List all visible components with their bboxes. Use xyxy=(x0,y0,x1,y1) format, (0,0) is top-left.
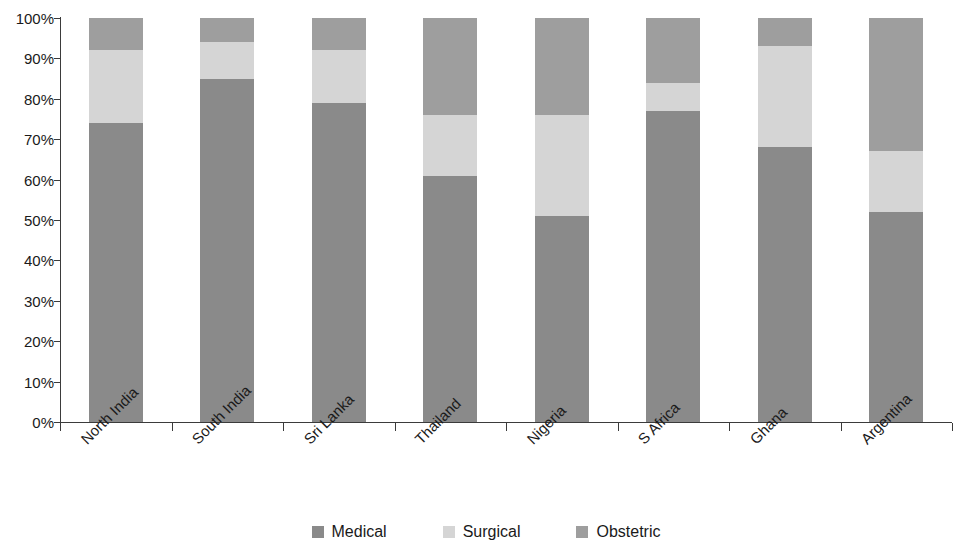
bar-segment-medical[interactable] xyxy=(200,79,254,422)
x-axis-tick-mark xyxy=(395,423,396,431)
y-axis-tick-label: 0% xyxy=(2,415,54,430)
legend-swatch-icon xyxy=(576,526,588,538)
y-axis-tick-label: 90% xyxy=(2,51,54,66)
plot-area xyxy=(60,18,952,422)
bar-segment-medical[interactable] xyxy=(646,111,700,422)
legend-label: Obstetric xyxy=(596,524,660,540)
bar-stack[interactable] xyxy=(646,18,700,422)
y-axis-tick-label: 30% xyxy=(2,293,54,308)
x-axis-tick-mark xyxy=(729,423,730,431)
legend-item-surgical[interactable]: Surgical xyxy=(443,524,521,540)
y-axis-tick-label: 20% xyxy=(2,334,54,349)
bar-stack[interactable] xyxy=(89,18,143,422)
bar-segment-surgical[interactable] xyxy=(758,46,812,147)
bar-stack[interactable] xyxy=(758,18,812,422)
y-axis-tick-label: 70% xyxy=(2,132,54,147)
y-axis-tick-label: 40% xyxy=(2,253,54,268)
bar-segment-medical[interactable] xyxy=(312,103,366,422)
y-axis-tick-label: 80% xyxy=(2,91,54,106)
legend-swatch-icon xyxy=(443,526,455,538)
y-axis-tick-label: 60% xyxy=(2,172,54,187)
bar-segment-surgical[interactable] xyxy=(200,42,254,78)
bar-segment-medical[interactable] xyxy=(89,123,143,422)
x-axis-tick-mark xyxy=(952,423,953,431)
bar-segment-medical[interactable] xyxy=(535,216,589,422)
bar-segment-surgical[interactable] xyxy=(535,115,589,216)
x-axis-tick-mark xyxy=(172,423,173,431)
bar-segment-obstetric[interactable] xyxy=(646,18,700,83)
bar-segment-obstetric[interactable] xyxy=(535,18,589,115)
bar-segment-surgical[interactable] xyxy=(646,83,700,111)
bar-stack[interactable] xyxy=(200,18,254,422)
bar-segment-surgical[interactable] xyxy=(869,151,923,212)
bar-segment-obstetric[interactable] xyxy=(312,18,366,50)
bar-stack[interactable] xyxy=(423,18,477,422)
x-axis-tick-mark xyxy=(506,423,507,431)
bar-segment-surgical[interactable] xyxy=(423,115,477,176)
stacked-bar-chart: 100%90%80%70%60%50%40%30%20%10%0% North … xyxy=(0,0,972,549)
bar-segment-medical[interactable] xyxy=(869,212,923,422)
bar-segment-medical[interactable] xyxy=(423,176,477,422)
bar-stack[interactable] xyxy=(312,18,366,422)
bar-segment-obstetric[interactable] xyxy=(89,18,143,50)
legend-item-obstetric[interactable]: Obstetric xyxy=(576,524,660,540)
bar-segment-obstetric[interactable] xyxy=(869,18,923,151)
bar-segment-obstetric[interactable] xyxy=(423,18,477,115)
y-axis-tick-label: 10% xyxy=(2,374,54,389)
bar-segment-obstetric[interactable] xyxy=(200,18,254,42)
bar-segment-surgical[interactable] xyxy=(89,50,143,123)
legend-label: Surgical xyxy=(463,524,521,540)
bar-segment-surgical[interactable] xyxy=(312,50,366,103)
legend-swatch-icon xyxy=(312,526,324,538)
bar-stack[interactable] xyxy=(869,18,923,422)
y-axis-labels: 100%90%80%70%60%50%40%30%20%10%0% xyxy=(0,0,54,549)
bar-segment-obstetric[interactable] xyxy=(758,18,812,46)
x-axis-tick-mark xyxy=(618,423,619,431)
x-axis-tick-mark xyxy=(60,423,61,431)
y-axis-tick-label: 100% xyxy=(2,11,54,26)
chart-legend: MedicalSurgicalObstetric xyxy=(0,524,972,540)
legend-item-medical[interactable]: Medical xyxy=(312,524,387,540)
x-axis-tick-mark xyxy=(841,423,842,431)
x-axis-tick-mark xyxy=(283,423,284,431)
legend-label: Medical xyxy=(332,524,387,540)
bar-stack[interactable] xyxy=(535,18,589,422)
bar-segment-medical[interactable] xyxy=(758,147,812,422)
y-axis-tick-label: 50% xyxy=(2,213,54,228)
